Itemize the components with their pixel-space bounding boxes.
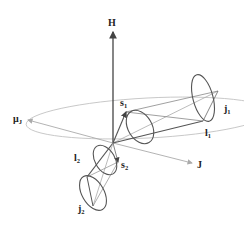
j-precession-cone bbox=[25, 92, 244, 145]
s2-precession-ellipse bbox=[88, 141, 121, 179]
s2-to-j2 bbox=[93, 162, 118, 206]
s1-to-j1 bbox=[203, 91, 218, 121]
label-s2: s2 bbox=[121, 159, 128, 171]
l1-cone-line bbox=[126, 112, 203, 121]
l2-to-j2 bbox=[87, 177, 93, 206]
mu-j-vector bbox=[28, 120, 113, 143]
label-h: H bbox=[108, 17, 116, 28]
j1-cone-line bbox=[126, 91, 218, 112]
label-j2: j2 bbox=[77, 203, 85, 215]
coupling-diagram: H J μJ s1 j1 l1 l2 s2 j2 bbox=[0, 0, 244, 225]
label-j-total: J bbox=[197, 159, 202, 170]
label-j1: j1 bbox=[223, 103, 231, 115]
label-s1: s1 bbox=[120, 97, 127, 109]
s1-vector bbox=[113, 112, 126, 143]
label-mu-j: μJ bbox=[13, 113, 23, 125]
l2-vector bbox=[87, 143, 113, 177]
label-l1: l1 bbox=[205, 127, 211, 139]
label-l2: l2 bbox=[74, 152, 80, 164]
